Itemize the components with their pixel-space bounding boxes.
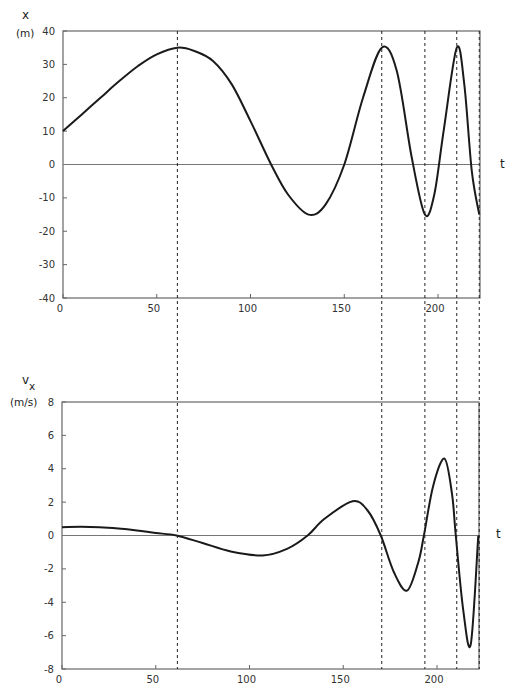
velocity-y-tick-label: -4 xyxy=(44,597,54,608)
dashed-time-markers xyxy=(177,31,479,669)
position-x-axis-ticks: 050100150200 xyxy=(57,294,445,314)
position-y-tick-label: 40 xyxy=(42,26,55,37)
velocity-x-tick-label: 0 xyxy=(56,674,62,685)
velocity-y-subscript: x xyxy=(29,380,35,392)
position-x-tick-label: 100 xyxy=(238,303,257,314)
position-t-label: t xyxy=(500,157,505,171)
velocity-y-tick-label: -6 xyxy=(44,630,54,641)
position-y-tick-label: -20 xyxy=(39,226,55,237)
position-y-tick-label: -40 xyxy=(39,293,55,304)
velocity-y-tick-label: -2 xyxy=(44,563,54,574)
position-x-tick-label: 0 xyxy=(57,303,63,314)
velocity-y-tick-label: 4 xyxy=(48,463,54,474)
velocity-y-tick-label: 6 xyxy=(48,430,54,441)
position-y-tick-label: 0 xyxy=(49,159,55,170)
velocity-y-tick-label: 0 xyxy=(48,530,54,541)
position-y-tick-label: -30 xyxy=(39,259,55,270)
position-x-tick-label: 200 xyxy=(425,303,444,314)
velocity-y-unit: (m/s) xyxy=(10,396,37,408)
position-y-tick-label: 10 xyxy=(42,126,55,137)
velocity-y-tick-label: 8 xyxy=(48,397,54,408)
position-y-symbol: x xyxy=(22,8,29,22)
position-y-tick-label: 20 xyxy=(42,92,55,103)
velocity-x-tick-label: 150 xyxy=(331,674,350,685)
velocity-t-label: t xyxy=(496,527,501,541)
velocity-chart: 86420-2-4-6-8 050100150200 v x (m/s) t xyxy=(10,373,501,685)
position-x-tick-label: 150 xyxy=(332,303,351,314)
position-x-tick-label: 50 xyxy=(147,303,160,314)
velocity-x-tick-label: 50 xyxy=(146,674,159,685)
velocity-y-tick-label: 2 xyxy=(48,497,54,508)
position-y-unit: (m) xyxy=(16,27,34,39)
velocity-x-axis-ticks: 050100150200 xyxy=(56,665,444,685)
velocity-y-tick-label: -8 xyxy=(44,664,54,675)
position-y-tick-label: -10 xyxy=(39,192,55,203)
position-chart: 403020100-10-20-30-40 050100150200 x (m)… xyxy=(16,8,505,314)
velocity-x-tick-label: 100 xyxy=(237,674,256,685)
chart-canvas: 403020100-10-20-30-40 050100150200 x (m)… xyxy=(0,0,516,699)
velocity-x-tick-label: 200 xyxy=(424,674,443,685)
position-y-tick-label: 30 xyxy=(42,59,55,70)
position-curve xyxy=(63,46,479,216)
velocity-curve xyxy=(62,459,478,648)
